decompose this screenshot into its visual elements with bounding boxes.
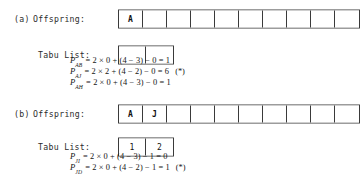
offspring-cell[interactable]: J bbox=[143, 106, 167, 123]
offspring-row-a: (a) Offspring: A bbox=[0, 8, 351, 30]
formula-marker: (*) bbox=[175, 67, 185, 76]
formula-body: = 2 × 0 + (4 − 3) − 0 = 1 bbox=[86, 78, 171, 87]
formula-line: PJI= 2 × 0 + (4 − 3) − 1 = 0 bbox=[70, 151, 186, 162]
offspring-cell[interactable] bbox=[191, 106, 215, 123]
formula-body: = 2 × 0 + (4 − 3) − 0 = 1 bbox=[85, 56, 170, 65]
offspring-strip-b: A J bbox=[118, 105, 360, 124]
row-spacer bbox=[0, 125, 351, 136]
offspring-cell[interactable] bbox=[287, 11, 311, 28]
formula-line: PAJ= 2 × 2 + (4 − 2) − 0 = 6(*) bbox=[70, 66, 185, 77]
offspring-cell[interactable] bbox=[191, 11, 215, 28]
offspring-cell[interactable]: A bbox=[119, 106, 143, 123]
offspring-cell[interactable] bbox=[287, 106, 311, 123]
offspring-cell[interactable] bbox=[311, 106, 335, 123]
formula-subscript: AH bbox=[75, 84, 83, 90]
formula-line: PJD= 2 × 0 + (4 − 2) − 1 = 1(*) bbox=[70, 162, 186, 173]
formula-body: = 2 × 0 + (4 − 3) − 1 = 0 bbox=[83, 152, 168, 161]
formula-marker: (*) bbox=[176, 163, 186, 172]
offspring-cell[interactable] bbox=[143, 11, 167, 28]
formula-subscript: AJ bbox=[75, 73, 81, 79]
formula-block-b: PJI= 2 × 0 + (4 − 3) − 1 = 0 PJD= 2 × 0 … bbox=[70, 151, 186, 173]
offspring-strip-a: A bbox=[118, 10, 360, 29]
offspring-label-b: Offspring: bbox=[33, 109, 85, 119]
formula-block-a: PAB= 2 × 0 + (4 − 3) − 0 = 1 PAJ= 2 × 2 … bbox=[70, 55, 185, 88]
formula-body: = 2 × 2 + (4 − 2) − 0 = 6 bbox=[85, 67, 170, 76]
offspring-cell[interactable] bbox=[215, 106, 239, 123]
offspring-cell[interactable]: A bbox=[119, 11, 143, 28]
offspring-cell[interactable] bbox=[311, 11, 335, 28]
formula-subscript: JD bbox=[75, 169, 82, 175]
panel-b: (b) Offspring: A J Tabu List: 1 2 bbox=[0, 103, 351, 158]
panel-tag-a: (a) bbox=[14, 14, 30, 24]
offspring-cell[interactable] bbox=[335, 11, 359, 28]
formula-subscript: AB bbox=[75, 62, 82, 68]
offspring-row-b: (b) Offspring: A J bbox=[0, 103, 351, 125]
formula-body: = 2 × 0 + (4 − 2) − 1 = 1 bbox=[85, 163, 170, 172]
offspring-cell[interactable] bbox=[167, 11, 191, 28]
offspring-cell[interactable] bbox=[335, 106, 359, 123]
panel-tag-b: (b) bbox=[14, 109, 30, 119]
offspring-cell[interactable] bbox=[167, 106, 191, 123]
row-spacer bbox=[0, 30, 351, 44]
offspring-label-a: Offspring: bbox=[33, 14, 85, 24]
offspring-cell[interactable] bbox=[263, 106, 287, 123]
formula-subscript: JI bbox=[75, 158, 80, 164]
offspring-cell[interactable] bbox=[215, 11, 239, 28]
offspring-cell[interactable] bbox=[239, 106, 263, 123]
formula-line: PAH= 2 × 0 + (4 − 3) − 0 = 1 bbox=[70, 77, 185, 88]
offspring-cell[interactable] bbox=[263, 11, 287, 28]
offspring-cell[interactable] bbox=[239, 11, 263, 28]
formula-line: PAB= 2 × 0 + (4 − 3) − 0 = 1 bbox=[70, 55, 185, 66]
